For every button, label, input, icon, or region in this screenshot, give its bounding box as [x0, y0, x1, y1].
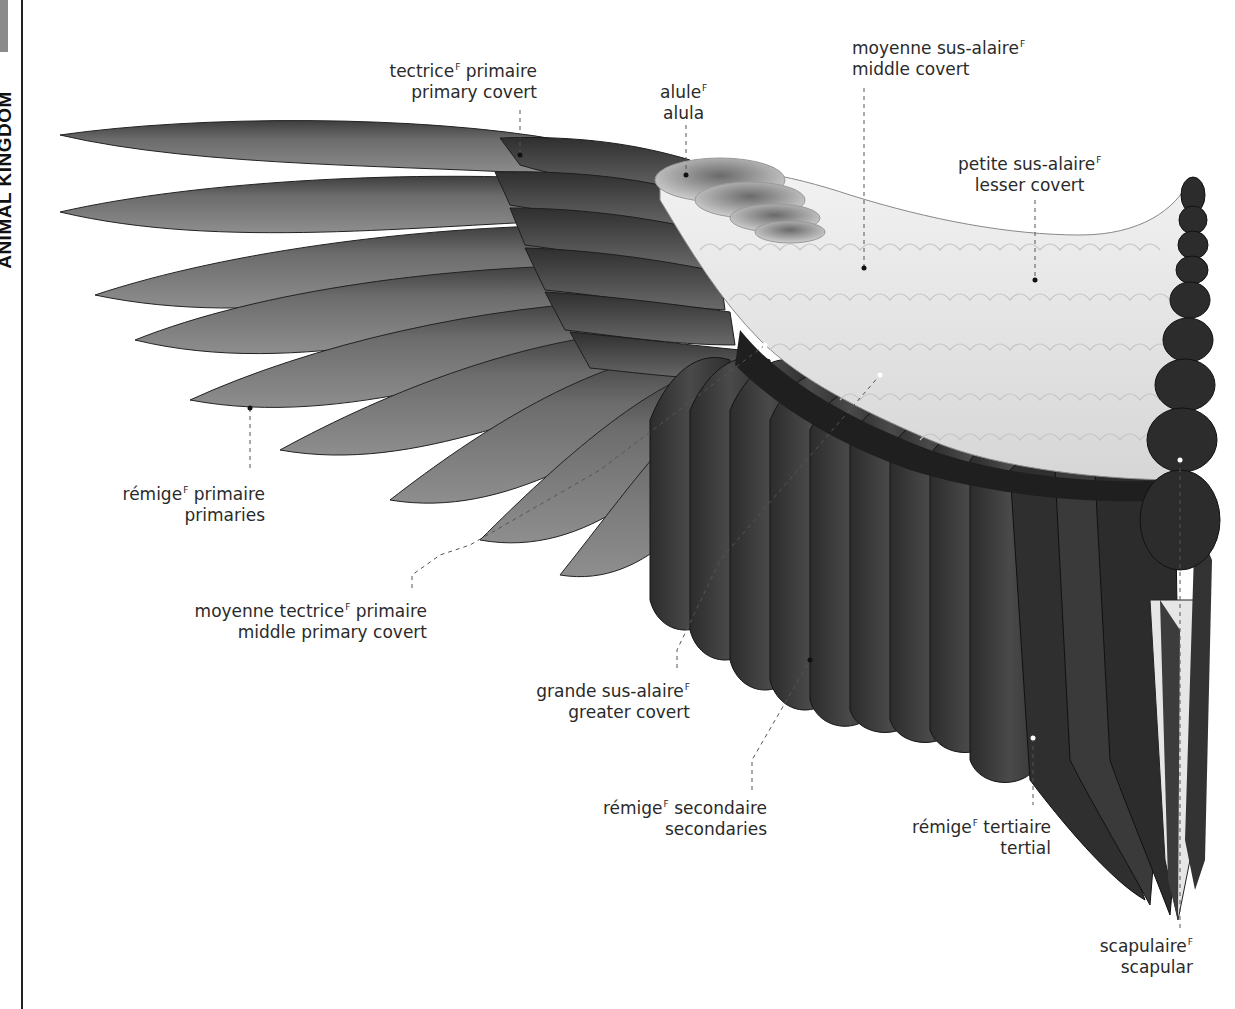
label-fr-suffix: tertiaire — [978, 817, 1051, 837]
label-fr-term: petite sus-alaire — [958, 154, 1095, 174]
label-en-term: scapular — [1100, 957, 1193, 978]
label-fr-term: scapulaire — [1100, 936, 1187, 956]
label-fr-term: rémige — [912, 817, 972, 837]
label-lesser-covert: petite sus-alaireF lesser covert — [958, 150, 1101, 196]
gender-marker: F — [702, 83, 707, 93]
label-fr-term: alule — [660, 82, 701, 102]
label-fr-term: grande sus-alaire — [536, 681, 684, 701]
label-primary-covert: tectriceF primaire primary covert — [389, 57, 537, 103]
label-middle-primary-covert: moyenne tectriceF primaire middle primar… — [195, 597, 427, 643]
label-fr-suffix: primaire — [188, 484, 265, 504]
gender-marker: F — [1096, 155, 1101, 165]
label-fr-term: moyenne tectrice — [195, 601, 345, 621]
label-scapular: scapulaireF scapular — [1100, 932, 1193, 978]
gender-marker: F — [685, 682, 690, 692]
label-fr-suffix: secondaire — [669, 798, 767, 818]
label-en-term: lesser covert — [958, 175, 1101, 196]
gender-marker: F — [1188, 937, 1193, 947]
label-en-term: tertial — [912, 838, 1051, 859]
label-fr-term: moyenne sus-alaire — [852, 38, 1019, 58]
label-tertial: rémigeF tertiaire tertial — [912, 813, 1051, 859]
label-middle-covert: moyenne sus-alaireF middle covert — [852, 34, 1025, 80]
label-fr-term: rémige — [603, 798, 663, 818]
label-alula: aluleF alula — [660, 78, 707, 124]
label-en-term: alula — [660, 103, 707, 124]
label-fr-suffix: primaire — [460, 61, 537, 81]
label-en-term: primaries — [123, 505, 265, 526]
label-fr-term: tectrice — [389, 61, 454, 81]
label-greater-covert: grande sus-alaireF greater covert — [536, 677, 690, 723]
label-primaries: rémigeF primaire primaries — [123, 480, 265, 526]
label-secondaries: rémigeF secondaire secondaries — [603, 794, 767, 840]
gender-marker: F — [1020, 39, 1025, 49]
label-en-term: middle primary covert — [195, 622, 427, 643]
label-fr-term: rémige — [123, 484, 183, 504]
label-en-term: greater covert — [536, 702, 690, 723]
label-fr-suffix: primaire — [350, 601, 427, 621]
label-en-term: middle covert — [852, 59, 1025, 80]
label-en-term: secondaries — [603, 819, 767, 840]
label-en-term: primary covert — [389, 82, 537, 103]
